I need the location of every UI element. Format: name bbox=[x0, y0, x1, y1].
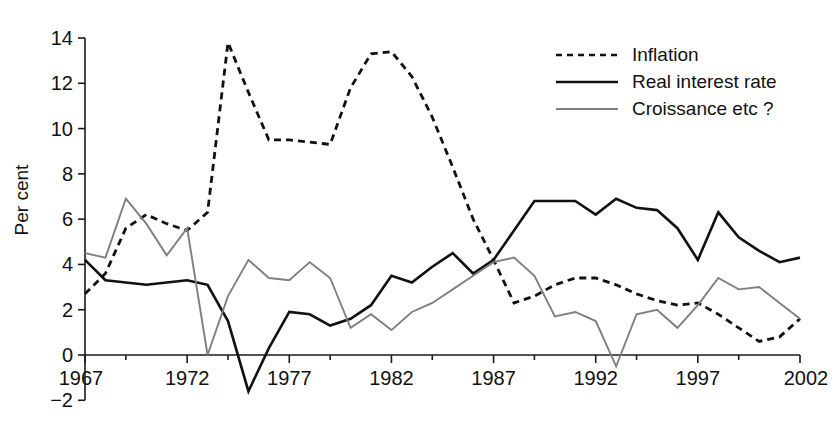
y-tick-label: 8 bbox=[62, 163, 73, 185]
x-tick-label: 1997 bbox=[676, 367, 721, 389]
x-tick-label: 1982 bbox=[369, 367, 414, 389]
y-tick-label: 2 bbox=[62, 299, 73, 321]
series-lines bbox=[85, 43, 800, 392]
y-tick-label: 10 bbox=[51, 118, 73, 140]
x-tick-label: 1972 bbox=[165, 367, 210, 389]
y-tick-label: 12 bbox=[51, 72, 73, 94]
x-tick-label: 2002 bbox=[784, 367, 829, 389]
y-tick-label: 14 bbox=[51, 27, 73, 49]
chart-svg: −202468101214196719721977198219871992199… bbox=[0, 0, 835, 426]
axes bbox=[78, 38, 800, 400]
y-tick-label: −2 bbox=[50, 389, 73, 411]
y-tick-label: 0 bbox=[62, 344, 73, 366]
y-tick-label: 4 bbox=[62, 253, 73, 275]
x-tick-label: 1977 bbox=[267, 367, 312, 389]
x-tick-label: 1992 bbox=[573, 367, 618, 389]
y-tick-label: 6 bbox=[62, 208, 73, 230]
legend-label-inflation: Inflation bbox=[632, 44, 699, 65]
x-tick-label: 1987 bbox=[471, 367, 516, 389]
legend-label-croissance-etc: Croissance etc ? bbox=[632, 98, 774, 119]
legend-label-real-interest-rate: Real interest rate bbox=[632, 71, 777, 92]
x-tick-label: 1967 bbox=[59, 367, 104, 389]
chart-legend: InflationReal interest rateCroissance et… bbox=[556, 44, 777, 119]
chart-figure: −202468101214196719721977198219871992199… bbox=[0, 0, 835, 426]
y-axis-title: Per cent bbox=[11, 164, 32, 235]
